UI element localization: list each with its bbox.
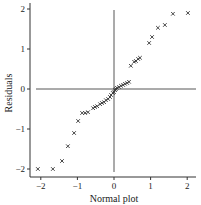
- plot-area: [36, 10, 196, 172]
- data-point-x-marker: [51, 167, 55, 171]
- y-tick-label: −1: [15, 124, 25, 134]
- x-tick-label: −2: [36, 181, 46, 191]
- data-point-x-marker: [76, 119, 80, 123]
- y-axis-ticks: −2−1012: [15, 4, 30, 174]
- y-tick-label: 2: [21, 4, 26, 14]
- data-point-x-marker: [66, 144, 70, 148]
- y-tick-label: 0: [21, 84, 26, 94]
- normal-probability-plot: −2−1012 −2−1012 Normal plot Residuals: [0, 0, 201, 205]
- x-tick-label: −1: [73, 181, 83, 191]
- data-point-x-marker: [129, 64, 133, 68]
- data-point-x-marker: [186, 11, 190, 15]
- y-tick-label: 1: [21, 44, 26, 54]
- y-axis-title: Residuals: [3, 73, 14, 112]
- y-tick-label: −2: [15, 164, 25, 174]
- data-point-x-marker: [86, 110, 90, 114]
- data-point-x-marker: [83, 111, 87, 115]
- x-axis-title: Normal plot: [90, 193, 139, 204]
- data-point-x-marker: [150, 35, 154, 39]
- x-tick-label: 1: [148, 181, 153, 191]
- data-point-x-marker: [60, 159, 64, 163]
- data-point-x-marker: [72, 131, 76, 135]
- x-tick-label: 0: [112, 181, 117, 191]
- data-point-x-marker: [156, 26, 160, 30]
- x-axis-ticks: −2−1012: [36, 177, 189, 191]
- data-point-x-marker: [147, 41, 151, 45]
- axes: [30, 3, 196, 177]
- data-point-x-marker: [36, 167, 40, 171]
- data-point-x-marker: [163, 23, 167, 27]
- x-tick-label: 2: [185, 181, 190, 191]
- data-point-x-marker: [171, 12, 175, 16]
